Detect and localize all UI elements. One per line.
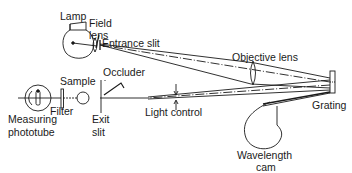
measuring-phototube-label-line1: Measuring bbox=[8, 113, 57, 125]
occluder-label: Occluder bbox=[103, 66, 145, 78]
lamp-label: Lamp bbox=[60, 10, 86, 22]
exit-slit-label-line2: slit bbox=[92, 126, 105, 138]
field-lens-label-line1: Field bbox=[89, 17, 112, 29]
optical-path-drawing bbox=[0, 0, 352, 173]
sample-label: Sample bbox=[60, 75, 96, 87]
diagram-canvas: Lamp Field lens Entrance slit Objective … bbox=[0, 0, 352, 173]
wavelength-cam-label-line2: cam bbox=[256, 161, 276, 173]
sample-icon bbox=[77, 92, 89, 104]
wavelength-cam-label-line1: Wavelength bbox=[237, 149, 292, 161]
measuring-phototube-label-line2: phototube bbox=[8, 126, 55, 138]
exit-slit-label-line1: Exit bbox=[92, 113, 110, 125]
entrance-slit-label: Entrance slit bbox=[102, 37, 160, 49]
grating-label: Grating bbox=[312, 99, 346, 111]
objective-lens-icon bbox=[251, 61, 256, 85]
light-control-label: Light control bbox=[145, 106, 202, 118]
exit-beam bbox=[100, 80, 330, 99]
grating-icon bbox=[330, 71, 335, 93]
occluder-icon bbox=[104, 83, 124, 95]
objective-lens-label: Objective lens bbox=[232, 51, 298, 63]
